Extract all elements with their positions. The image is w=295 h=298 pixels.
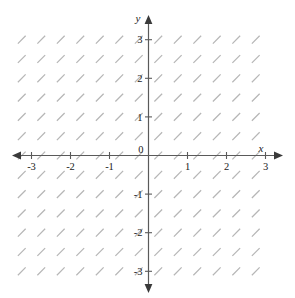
x-axis-name-label: x	[258, 142, 264, 154]
axis-name-group: y x	[0, 0, 295, 298]
slope-field-figure: -3-2-10123-3-2-1123 y x	[0, 0, 295, 298]
y-axis-name-label: y	[135, 12, 141, 24]
